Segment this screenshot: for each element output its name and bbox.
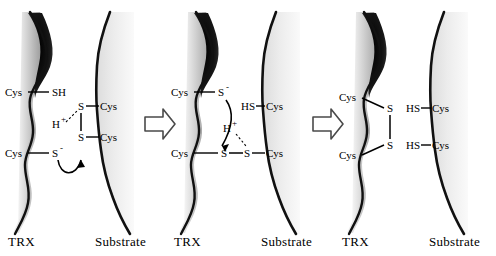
reaction-step-panel-3: Cys S Cys S HS Cys HS Cys TRX Substrate — [336, 0, 486, 256]
substrate-protein-shape — [430, 12, 468, 234]
trx-sulfur-top-label: S — [387, 102, 393, 114]
trx-cys-top-label: Cys — [171, 86, 188, 98]
reaction-step-panel-1: Cys SH Cys S - S Cys S Cys H + — [2, 0, 152, 256]
substrate-thiol-top-label: HS — [241, 100, 255, 112]
trx-thiolate-label: S — [218, 86, 224, 98]
substrate-s-bottom-label: S — [78, 131, 84, 143]
panel-3-trx-caption: TRX — [342, 234, 369, 250]
panel-1-substrate-caption: Substrate — [95, 234, 146, 250]
substrate-cys-bottom-label: Cys — [432, 139, 449, 151]
trx-protein-shape — [13, 12, 53, 234]
substrate-thiol-top-label: HS — [406, 102, 420, 114]
nucleophilic-attack-arrow — [58, 160, 81, 173]
substrate-sulfur-bottom-label: S — [244, 147, 250, 159]
trx-cys-top-label: Cys — [5, 86, 22, 98]
substrate-protein-shape — [96, 12, 134, 234]
trx-thiol-top-label: SH — [52, 86, 66, 98]
panel-2-substrate-caption: Substrate — [261, 234, 312, 250]
trx-thiolate-charge: - — [226, 82, 229, 92]
trx-cys-bottom-label: Cys — [339, 149, 356, 161]
panel-3-graphic: Cys S Cys S HS Cys HS Cys — [336, 0, 486, 256]
trx-mechanism-figure: Cys SH Cys S - S Cys S Cys H + — [0, 0, 496, 256]
substrate-cys-top-label: Cys — [432, 102, 449, 114]
trx-thiolate-label: S — [52, 147, 58, 159]
trx-cys-top-label: Cys — [339, 91, 356, 103]
substrate-protein-shape — [262, 12, 300, 234]
hydrogen-bond-dashed — [66, 110, 78, 122]
trx-cys-bottom-label: Cys — [5, 147, 22, 159]
substrate-s-top-label: S — [78, 100, 84, 112]
proton-charge-label: + — [232, 118, 237, 128]
trx-protein-shape — [179, 12, 219, 234]
panel-2-captions: TRX Substrate — [168, 234, 318, 250]
proton-label: H — [52, 118, 60, 130]
hydrogen-bond-dashed — [236, 134, 246, 146]
panel-3-captions: TRX Substrate — [336, 234, 486, 250]
trx-sulfur-bottom-label: S — [387, 139, 393, 151]
substrate-cys-bottom-label: Cys — [266, 147, 283, 159]
substrate-cys-top-label: Cys — [100, 100, 117, 112]
panel-1-captions: TRX Substrate — [2, 234, 152, 250]
reaction-step-panel-2: Cys S - Cys S HS Cys S Cys H + — [168, 0, 318, 256]
panel-1-trx-caption: TRX — [8, 234, 35, 250]
panel-1-graphic: Cys SH Cys S - S Cys S Cys H + — [2, 0, 152, 256]
proton-charge-label: + — [61, 114, 66, 124]
trx-cys-bottom-label: Cys — [171, 147, 188, 159]
arrow-head — [77, 160, 85, 168]
panel-2-graphic: Cys S - Cys S HS Cys S Cys H + — [168, 0, 318, 256]
trx-protein-shape — [347, 12, 387, 234]
panel-2-trx-caption: TRX — [174, 234, 201, 250]
substrate-cys-bottom-label: Cys — [100, 131, 117, 143]
substrate-cys-top-label: Cys — [266, 100, 283, 112]
substrate-thiol-bottom-label: HS — [406, 139, 420, 151]
trx-thiolate-charge: - — [60, 143, 63, 153]
panel-3-substrate-caption: Substrate — [429, 234, 480, 250]
